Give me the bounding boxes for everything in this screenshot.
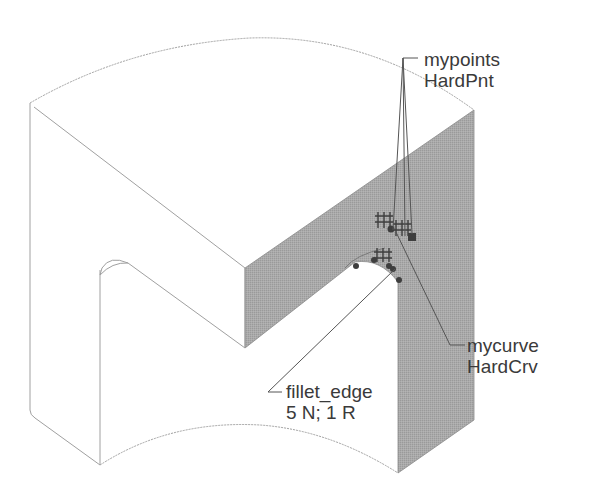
label-fillet-edge: fillet_edge 5 N; 1 R (286, 381, 373, 423)
label-mypoints-type: HardPnt (424, 70, 500, 91)
label-mypoints-name: mypoints (424, 49, 500, 70)
label-mycurve: mycurve HardCrv (467, 335, 539, 377)
label-fillet-edge-stats: 5 N; 1 R (286, 402, 373, 423)
label-mycurve-name: mycurve (467, 335, 539, 356)
label-mycurve-type: HardCrv (467, 356, 539, 377)
label-mypoints: mypoints HardPnt (424, 49, 500, 91)
label-fillet-edge-name: fillet_edge (286, 381, 373, 402)
